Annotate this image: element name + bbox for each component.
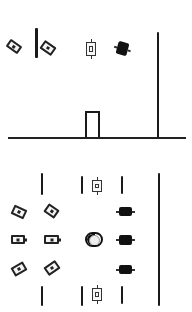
battery-tag-icon[interactable] — [43, 203, 59, 219]
divider-line — [121, 176, 123, 194]
solid-block-icon[interactable] — [119, 235, 132, 245]
toggle-knob-light — [89, 235, 100, 246]
vertical-bar — [35, 28, 38, 58]
ground-line — [8, 137, 186, 139]
divider-line — [41, 286, 43, 306]
vertical-tag-icon[interactable] — [86, 42, 96, 56]
divider-line — [41, 173, 43, 195]
door-icon[interactable] — [85, 111, 100, 138]
solid-block-icon[interactable] — [119, 265, 132, 274]
battery-tag-icon[interactable] — [39, 40, 56, 56]
top-panel — [0, 0, 192, 150]
solid-block-icon[interactable] — [119, 207, 132, 216]
bottom-panel — [0, 156, 192, 312]
battery-tag-icon[interactable] — [10, 261, 27, 277]
battery-tag-icon[interactable] — [44, 235, 59, 244]
battery-tag-icon[interactable] — [11, 235, 25, 244]
vertical-pole — [157, 32, 159, 138]
vertical-pole — [158, 173, 160, 306]
vertical-tag-icon[interactable] — [92, 180, 102, 192]
divider-line — [81, 176, 83, 194]
battery-tag-icon[interactable] — [6, 39, 23, 54]
solid-block-icon[interactable] — [116, 41, 130, 56]
toggle-switch-icon[interactable] — [85, 232, 103, 247]
battery-tag-icon[interactable] — [11, 205, 28, 220]
battery-tag-icon[interactable] — [43, 260, 60, 276]
divider-line — [81, 286, 83, 306]
divider-line — [121, 286, 123, 304]
vertical-tag-icon[interactable] — [92, 288, 102, 301]
